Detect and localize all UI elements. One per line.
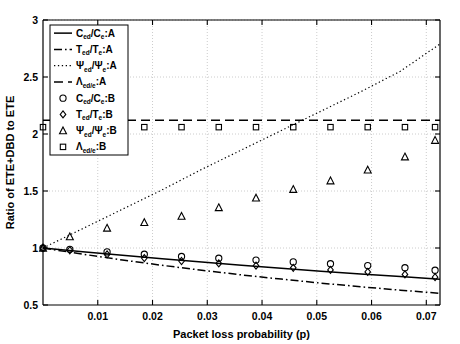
y-tick-label: 0.5 — [23, 299, 38, 311]
y-tick-label: 1.5 — [23, 185, 38, 197]
x-axis-label: Packet loss probability (p) — [173, 328, 310, 340]
x-tick-label: 0.06 — [361, 310, 382, 322]
x-tick-label: 0.05 — [307, 310, 328, 322]
x-tick-label: 0.02 — [142, 310, 163, 322]
chart-canvas: 0.010.020.030.040.050.060.070.511.522.53… — [0, 0, 460, 344]
legend-label: Ψed/Ψe:A — [76, 60, 117, 73]
x-tick-label: 0.01 — [88, 310, 109, 322]
x-tick-label: 0.03 — [197, 310, 218, 322]
y-tick-label: 3 — [32, 14, 38, 26]
legend-label: Ted/Te:B — [76, 109, 113, 122]
x-tick-label: 0.04 — [252, 310, 273, 322]
y-axis-label: Ratio of ETE+DBD to ETE — [4, 96, 16, 230]
y-tick-label: 2 — [32, 128, 38, 140]
chart-figure: 0.010.020.030.040.050.060.070.511.522.53… — [0, 0, 460, 344]
legend-label: Ted/Te:A — [76, 44, 113, 57]
legend-label: Ψed/Ψe:B — [76, 125, 117, 138]
y-tick-label: 2.5 — [23, 71, 38, 83]
legend-label: Ced/Ce:B — [76, 93, 115, 106]
legend-label: Ced/Ce:A — [76, 28, 115, 41]
y-tick-label: 1 — [32, 242, 38, 254]
x-tick-label: 0.07 — [416, 310, 437, 322]
